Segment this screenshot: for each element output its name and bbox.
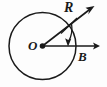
physics-figure: R B O: [0, 0, 107, 87]
center-label: O: [28, 39, 37, 52]
radius-vector-arrowhead: [86, 6, 95, 15]
figure-canvas: [0, 0, 107, 87]
radius-label: R: [64, 1, 73, 15]
radius-vector-line: [43, 10, 90, 46]
center-point-dot: [40, 43, 46, 49]
field-label: B: [78, 50, 87, 63]
